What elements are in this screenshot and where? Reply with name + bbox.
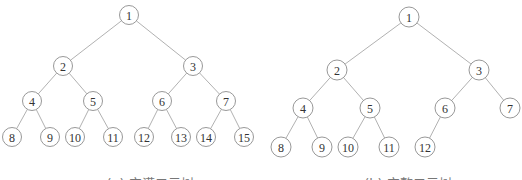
tree-node: 11 — [104, 128, 123, 147]
figure-caption: (b) 完整二元树 — [364, 176, 452, 180]
tree-node: 1 — [120, 6, 139, 25]
tree-node: 11 — [379, 137, 399, 157]
tree-edge — [200, 73, 220, 94]
node-label: 3 — [190, 60, 196, 74]
tree-edge — [17, 109, 28, 128]
tree-edge — [211, 109, 222, 128]
tree-node: 6 — [153, 92, 172, 111]
node-label: 4 — [300, 102, 306, 116]
node-label: 9 — [319, 141, 325, 155]
node-label: 13 — [175, 131, 187, 145]
tree-edge — [485, 78, 503, 101]
tree-node: 4 — [23, 92, 42, 111]
node-label: 15 — [238, 131, 250, 145]
tree-node: 9 — [41, 128, 60, 147]
tree-edge — [452, 77, 473, 100]
tree-node: 8 — [271, 137, 291, 157]
tree-node: 8 — [3, 128, 22, 147]
node-label: 2 — [334, 64, 340, 78]
node-label: 4 — [29, 95, 35, 109]
tree-node: 5 — [84, 92, 103, 111]
tree-node: 3 — [184, 57, 203, 76]
tree-node: 2 — [54, 57, 73, 76]
node-label: 6 — [442, 102, 448, 116]
tree-node: 13 — [172, 128, 191, 147]
tree-node: 7 — [500, 98, 520, 118]
node-label: 7 — [507, 102, 513, 116]
figure-captions: (a) 完满二元树(b) 完整二元树 — [106, 176, 451, 180]
tree-node: 4 — [293, 98, 313, 118]
node-label: 10 — [69, 131, 81, 145]
node-label: 1 — [126, 9, 132, 23]
figure-caption: (a) 完满二元树 — [106, 176, 193, 180]
tree-edge — [71, 21, 122, 60]
tree-edge — [374, 117, 384, 138]
node-label: 8 — [278, 141, 284, 155]
node-label: 8 — [9, 131, 15, 145]
node-label: 7 — [223, 95, 229, 109]
node-label: 11 — [383, 141, 395, 155]
tree-edge — [430, 117, 441, 138]
tree-edge — [148, 109, 158, 128]
tree-node: 12 — [415, 137, 435, 157]
tree-node: 12 — [135, 128, 154, 147]
tree-edge — [286, 117, 298, 139]
tree-edge — [98, 109, 109, 128]
node-label: 2 — [60, 60, 66, 74]
tree-node: 6 — [435, 98, 455, 118]
node-label: 3 — [476, 64, 482, 78]
node-label: 5 — [90, 95, 96, 109]
tree-nodes: 123456789101112131415123456789101112 — [3, 6, 521, 158]
binary-tree-figure: 123456789101112131415123456789101112 (a)… — [0, 0, 522, 180]
node-label: 5 — [367, 102, 373, 116]
node-label: 6 — [159, 95, 165, 109]
tree-edge — [69, 73, 87, 94]
tree-node: 10 — [66, 128, 85, 147]
tree-node: 2 — [327, 60, 347, 80]
tree-node: 10 — [338, 137, 358, 157]
tree-node: 1 — [399, 7, 419, 27]
tree-edges — [17, 21, 504, 138]
tree-node: 14 — [197, 128, 216, 147]
tree-edge — [38, 73, 56, 94]
node-label: 9 — [47, 131, 53, 145]
node-label: 14 — [200, 131, 212, 145]
tree-node: 9 — [312, 137, 332, 157]
tree-node: 3 — [469, 60, 489, 80]
tree-edge — [344, 78, 364, 101]
node-label: 11 — [107, 131, 119, 145]
tree-edge — [36, 109, 46, 128]
tree-node: 15 — [235, 128, 254, 147]
tree-edge — [307, 117, 317, 138]
tree-edge — [230, 109, 240, 128]
node-label: 1 — [406, 11, 412, 25]
tree-edge — [310, 77, 331, 100]
tree-edge — [345, 23, 401, 64]
tree-edge — [417, 23, 471, 64]
tree-edge — [168, 73, 186, 94]
tree-edge — [166, 109, 176, 128]
node-label: 12 — [419, 141, 431, 155]
tree-edge — [353, 117, 365, 139]
tree-node: 5 — [360, 98, 380, 118]
node-label: 12 — [138, 131, 150, 145]
tree-node: 7 — [217, 92, 236, 111]
tree-edge — [136, 21, 185, 60]
node-label: 10 — [342, 141, 354, 155]
tree-edge — [79, 109, 89, 128]
